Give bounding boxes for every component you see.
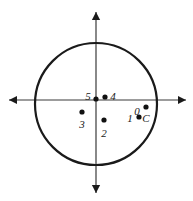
y-axis-arrowhead-top (92, 12, 100, 20)
x-axis-arrowhead-left (9, 96, 17, 104)
point-label-4: 4 (110, 91, 116, 102)
point-label-2: 2 (101, 128, 107, 139)
x-axis-arrowhead-right (178, 96, 186, 104)
point-dot-5 (93, 96, 98, 101)
figure-canvas (0, 0, 193, 201)
geometry-figure: 012345C (0, 0, 193, 201)
point-dot-4 (102, 94, 107, 99)
point-dot-c (143, 104, 148, 109)
y-axis-arrowhead-bottom (92, 185, 100, 193)
point-dot-2 (101, 117, 106, 122)
point-dot-3 (79, 109, 84, 114)
point-label-c: C (142, 113, 149, 124)
point-label-5: 5 (85, 91, 91, 102)
point-label-0: 0 (134, 106, 140, 117)
point-label-1: 1 (127, 113, 133, 124)
point-label-3: 3 (79, 119, 85, 130)
